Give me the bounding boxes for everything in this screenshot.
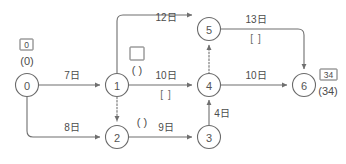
node-5-label: 5 [206,24,212,36]
node-2[interactable]: 2 [106,126,129,149]
annotation-node-6-boxed-value: 34 [324,70,334,80]
node-3[interactable]: 3 [198,126,221,149]
edge-0-to-2-duration: 8日 [64,122,80,133]
edge-1-to-4-duration: 10日 [155,70,176,81]
annotation-node-1: ( ) [130,47,144,76]
annotation-node-2-paren-value: ( ) [137,116,147,128]
node-3-label: 3 [206,132,212,144]
annotation-node-1-paren-value: ( ) [132,64,142,76]
edge-1-to-5-duration: 12日 [155,12,176,23]
node-6[interactable]: 6 [293,74,316,97]
node-6-label: 6 [301,80,307,92]
node-2-label: 2 [114,132,120,144]
node-0-label: 0 [24,80,30,92]
edge-3-to-4-duration: 4日 [214,108,230,119]
annotation-node-0-paren-value: (0) [20,55,33,67]
edge-2-to-3-duration: 9日 [158,122,174,133]
edge-5-to-6-blank: [ ] [250,33,261,44]
annotation-node-2: ( ) [137,116,147,128]
node-1[interactable]: 1 [106,74,129,97]
edge-5-to-6 [220,29,304,69]
node-5[interactable]: 5 [198,18,221,41]
annotation-node-6-paren-value: (34) [318,85,338,97]
node-1-label: 1 [114,80,120,92]
node-4-label: 4 [206,80,212,92]
node-4[interactable]: 4 [198,74,221,97]
node-0[interactable]: 0 [16,74,39,97]
annotation-node-0-boxed-value: 0 [24,40,29,50]
edge-0-to-1-duration: 7日 [64,70,80,81]
network-diagram: 7日 8日 12日 10日 [ ] 9日 4日 10日 13日 [ ] 0 [0,0,346,164]
annotation-node-0: 0 (0) [20,39,34,67]
edge-1-to-5 [117,15,192,74]
edge-4-to-6-duration: 10日 [245,70,266,81]
edge-1-to-4-blank: [ ] [160,89,171,100]
annotation-node-6: 34 (34) [318,69,338,97]
arrow-diagram-canvas: 7日 8日 12日 10日 [ ] 9日 4日 10日 13日 [ ] 0 [0,0,346,164]
annotation-node-1-empty-box [130,47,144,60]
edge-5-to-6-duration: 13日 [245,14,266,25]
